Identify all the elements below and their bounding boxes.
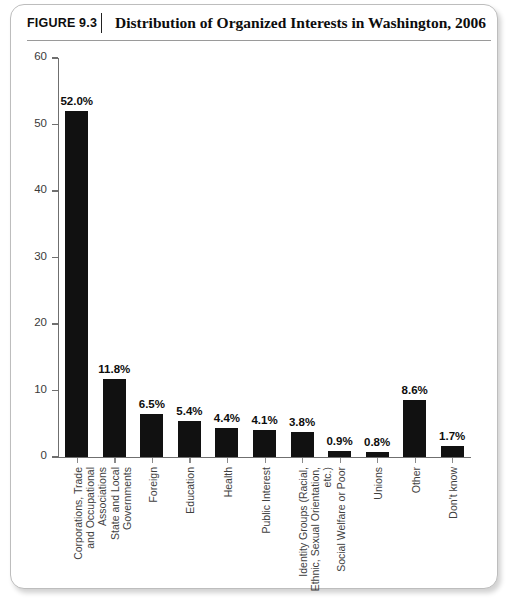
x-axis-category-label: Health (222, 467, 234, 613)
bar-chart-plot: 0102030405060 52.0%11.8%6.5%5.4%4.4%4.1%… (11, 43, 499, 589)
figure-title: Distribution of Organized Interests in W… (115, 14, 487, 32)
y-axis-label: 60 (13, 50, 47, 62)
x-axis-tick (415, 458, 416, 463)
bar[interactable] (103, 379, 126, 457)
bar[interactable] (253, 430, 276, 457)
x-axis-tick (152, 458, 153, 463)
figure-number: FIGURE 9.3 (27, 16, 97, 30)
y-axis-tick (52, 323, 58, 324)
bar[interactable] (441, 446, 464, 457)
x-axis-tick (340, 458, 341, 463)
y-axis-label: 20 (13, 316, 47, 328)
x-axis-tick (77, 458, 78, 463)
y-axis-label: 40 (13, 183, 47, 195)
x-axis-tick (189, 458, 190, 463)
bar-value-label: 0.8% (349, 436, 405, 448)
x-axis-category-label: Other (410, 467, 422, 613)
bar-value-label: 52.0% (49, 95, 105, 107)
header-rule (27, 40, 491, 41)
y-axis-tick (52, 390, 58, 391)
bar-value-label: 8.6% (387, 384, 443, 396)
y-axis-label: 50 (13, 117, 47, 129)
bar[interactable] (403, 400, 426, 457)
bar[interactable] (140, 414, 163, 457)
bar[interactable] (65, 111, 88, 457)
y-axis-tick (52, 257, 58, 258)
x-axis-tick (114, 458, 115, 463)
y-axis-line (58, 58, 59, 458)
x-axis-category-label: Don't know (447, 467, 459, 613)
x-axis-category-label: Foreign (147, 467, 159, 613)
x-axis-tick (227, 458, 228, 463)
bar[interactable] (291, 432, 314, 457)
bar[interactable] (178, 421, 201, 457)
x-axis-tick (377, 458, 378, 463)
x-axis-category-label: State and Local Governments (109, 467, 133, 613)
bar[interactable] (328, 451, 351, 457)
x-axis-category-label: Education (184, 467, 196, 613)
y-axis-tick (52, 124, 58, 125)
y-axis-label: 0 (13, 449, 47, 461)
y-axis-tick (52, 190, 58, 191)
x-axis-tick (452, 458, 453, 463)
x-axis-category-label: Identity Groups (Racial, Ethnic, Sexual … (297, 467, 334, 613)
figure-card: FIGURE 9.3 Distribution of Organized Int… (10, 4, 498, 589)
x-axis-tick (302, 458, 303, 463)
bar[interactable] (215, 428, 238, 457)
y-axis-tick (52, 456, 58, 457)
bar-value-label: 3.8% (274, 416, 330, 428)
y-axis-label: 30 (13, 250, 47, 262)
x-axis-category-label: Social Welfare or Poor (334, 467, 346, 613)
header-divider (101, 13, 102, 33)
bar-value-label: 1.7% (424, 430, 480, 442)
x-axis-category-label: Public Interest (259, 467, 271, 613)
y-axis-label: 10 (13, 383, 47, 395)
bar[interactable] (366, 452, 389, 457)
y-axis-tick (52, 57, 58, 58)
x-axis-category-label: Corporations, Trade and Occupational Ass… (72, 467, 109, 613)
figure-header: FIGURE 9.3 Distribution of Organized Int… (11, 5, 499, 43)
x-axis-tick (265, 458, 266, 463)
bar-value-label: 11.8% (86, 363, 142, 375)
x-axis-category-label: Unions (372, 467, 384, 613)
